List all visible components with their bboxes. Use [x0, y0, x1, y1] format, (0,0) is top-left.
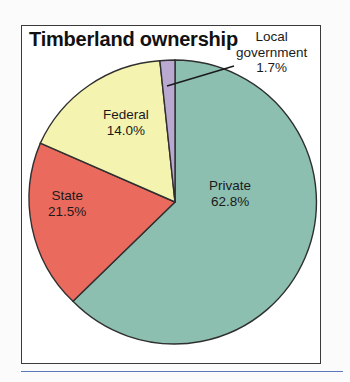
pie-label-private-name: Private — [209, 178, 251, 194]
pie-label-local-government-value: 1.7% — [236, 60, 307, 76]
pie-label-private: Private 62.8% — [209, 178, 251, 210]
pie-label-federal: Federal 14.0% — [103, 107, 149, 139]
pie-label-state-name: State — [48, 188, 86, 204]
figure-container: Timberland ownership Private 62.8% State… — [0, 0, 350, 382]
pie-label-local-government: Local government 1.7% — [236, 29, 307, 76]
page-title: Timberland ownership — [29, 28, 238, 51]
pie-label-federal-name: Federal — [103, 107, 149, 123]
footer-rule — [21, 371, 343, 372]
pie-label-private-value: 62.8% — [209, 194, 251, 210]
pie-label-local-government-name-line1: Local — [236, 29, 307, 45]
pie-label-state: State 21.5% — [48, 188, 86, 220]
pie-label-federal-value: 14.0% — [103, 123, 149, 139]
pie-label-local-government-name-line2: government — [236, 45, 307, 61]
pie-label-state-value: 21.5% — [48, 204, 86, 220]
